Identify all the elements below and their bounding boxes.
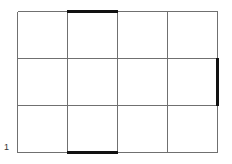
grid-figure: 1 xyxy=(0,0,232,164)
emphasis-segments xyxy=(67,12,218,153)
grid-vertical-lines xyxy=(18,12,218,153)
corner-label: 1 xyxy=(4,143,9,152)
grid-diagram xyxy=(0,0,232,164)
